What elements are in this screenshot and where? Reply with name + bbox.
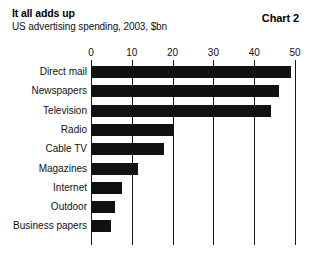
bar-row: Business papers <box>91 220 295 232</box>
bar <box>91 66 291 78</box>
bar-row: Newspapers <box>91 85 295 97</box>
bar <box>91 143 164 155</box>
bar-row: Television <box>91 105 295 117</box>
bar-row: Internet <box>91 182 295 194</box>
x-axis-tick-label: 20 <box>167 47 178 59</box>
bar-category-label: Magazines <box>39 162 87 175</box>
bar-category-label: Radio <box>61 123 87 136</box>
x-axis-tick-label: 40 <box>249 47 260 59</box>
x-axis-tick-label: 10 <box>126 47 137 59</box>
x-axis-tick-label: 30 <box>208 47 219 59</box>
bar-category-label: Cable TV <box>45 142 87 155</box>
chart-number-label: Chart 2 <box>262 12 299 24</box>
bar <box>91 182 122 194</box>
bar-category-label: Outdoor <box>51 200 87 213</box>
bar-category-label: Internet <box>53 181 87 194</box>
bar-row: Cable TV <box>91 143 295 155</box>
x-axis-scale: 01020304050 <box>91 47 295 61</box>
x-axis-tick-label: 50 <box>289 47 300 59</box>
bar <box>91 124 173 136</box>
bar <box>91 220 111 232</box>
bar-category-label: Television <box>43 104 87 117</box>
bar <box>91 105 271 117</box>
bar-row: Direct mail <box>91 66 295 78</box>
plot-area: Direct mailNewspapersTelevisionRadioCabl… <box>91 64 295 245</box>
bar-category-label: Business papers <box>13 219 87 232</box>
bar-row: Outdoor <box>91 201 295 213</box>
bar-category-label: Direct mail <box>40 65 87 78</box>
gridline <box>295 64 296 245</box>
bar-row: Magazines <box>91 163 295 175</box>
bar-category-label: Newspapers <box>31 84 87 97</box>
bar <box>91 163 138 175</box>
page-title: It all adds up <box>12 7 299 20</box>
chart-figure: It all adds up US advertising spending, … <box>0 0 309 267</box>
bar-row: Radio <box>91 124 295 136</box>
bar <box>91 201 115 213</box>
chart-subtitle: US advertising spending, 2003, $bn <box>12 20 299 33</box>
chart-header: It all adds up US advertising spending, … <box>12 7 299 39</box>
x-axis-tick-label: 0 <box>88 47 94 59</box>
bar <box>91 85 279 97</box>
